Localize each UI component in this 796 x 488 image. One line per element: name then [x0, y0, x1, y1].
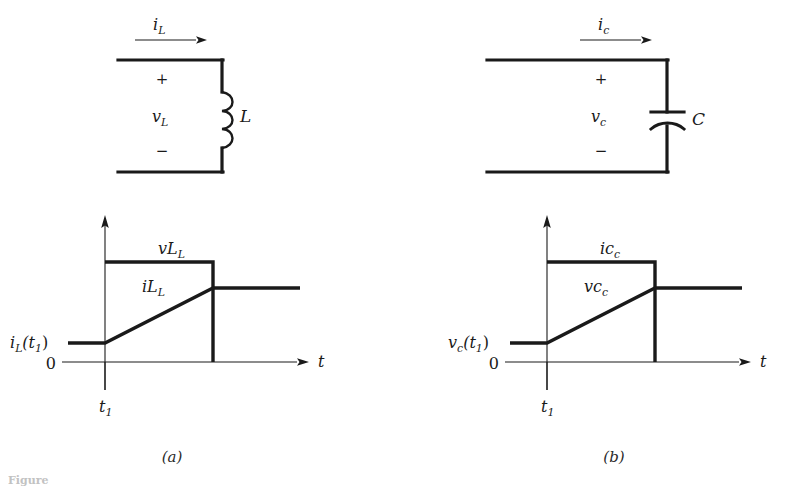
figure-canvas: iL L + vL − ic C [0, 0, 796, 488]
polarity-plus-b: + [595, 70, 608, 88]
graph-a-x-axis-arrowhead [297, 358, 309, 366]
panel-b-graph: t 0 vc(t1) t1 icc vcc (b) [448, 215, 767, 466]
figure-caption-text: Figure [8, 474, 48, 487]
graph-a-curve-vl [105, 262, 213, 362]
component-label-a: L [239, 106, 251, 126]
panel-a-graph: t 0 iL(t1) t1 vLL iLL (a) [10, 215, 325, 466]
panel-a-circuit: iL L + vL − [118, 15, 251, 172]
voltage-label-b: vc [591, 107, 606, 129]
graph-b-curve-vc [510, 288, 742, 343]
graph-a-curve-label-vl: vLL [158, 239, 185, 261]
graph-b-zero-label: 0 [489, 354, 499, 373]
graph-a-initial-value-label: iL(t1) [10, 333, 48, 355]
graph-b-curve-label-ic: icc [600, 239, 620, 261]
figure-root: iL L + vL − ic C [0, 0, 796, 488]
component-label-b: C [692, 109, 705, 129]
graph-b-x-axis-label: t [760, 352, 767, 371]
voltage-label-a: vL [152, 107, 168, 129]
graph-b-curve-label-vc: vcc [584, 277, 608, 299]
current-label-a: iL [153, 15, 165, 37]
graph-a-curve-il [68, 288, 300, 343]
polarity-minus-b: − [595, 142, 608, 160]
polarity-minus-a: − [156, 142, 169, 160]
current-label-b: ic [598, 15, 609, 37]
graph-a-t1-label: t1 [99, 397, 112, 419]
inductor-icon [222, 92, 233, 148]
graph-b-initial-value-label: vc(t1) [448, 333, 489, 355]
polarity-plus-a: + [156, 70, 169, 88]
graph-a-x-axis-label: t [318, 352, 325, 371]
graph-b-t1-label: t1 [541, 397, 554, 419]
graph-a-zero-label: 0 [46, 354, 56, 373]
current-arrow-b [580, 36, 652, 44]
panel-b-circuit: ic C + vc − [487, 15, 705, 172]
panel-label-a: (a) [162, 448, 183, 466]
panel-label-b: (b) [603, 448, 624, 466]
figure-caption: Figure [8, 474, 568, 487]
graph-b-x-axis-arrowhead [739, 358, 751, 366]
graph-a-curve-label-il: iLL [142, 277, 165, 299]
current-arrow-a [135, 36, 207, 44]
